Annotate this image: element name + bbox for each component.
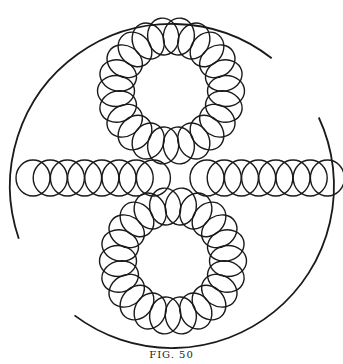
bottom-ring <box>98 186 248 336</box>
figure-diagram <box>0 0 343 364</box>
outer-arc-lower <box>75 118 335 349</box>
figure-caption: FIG. 50 <box>0 349 343 360</box>
right-chain <box>190 160 343 196</box>
left-chain <box>16 160 170 196</box>
top-ring <box>96 16 246 166</box>
